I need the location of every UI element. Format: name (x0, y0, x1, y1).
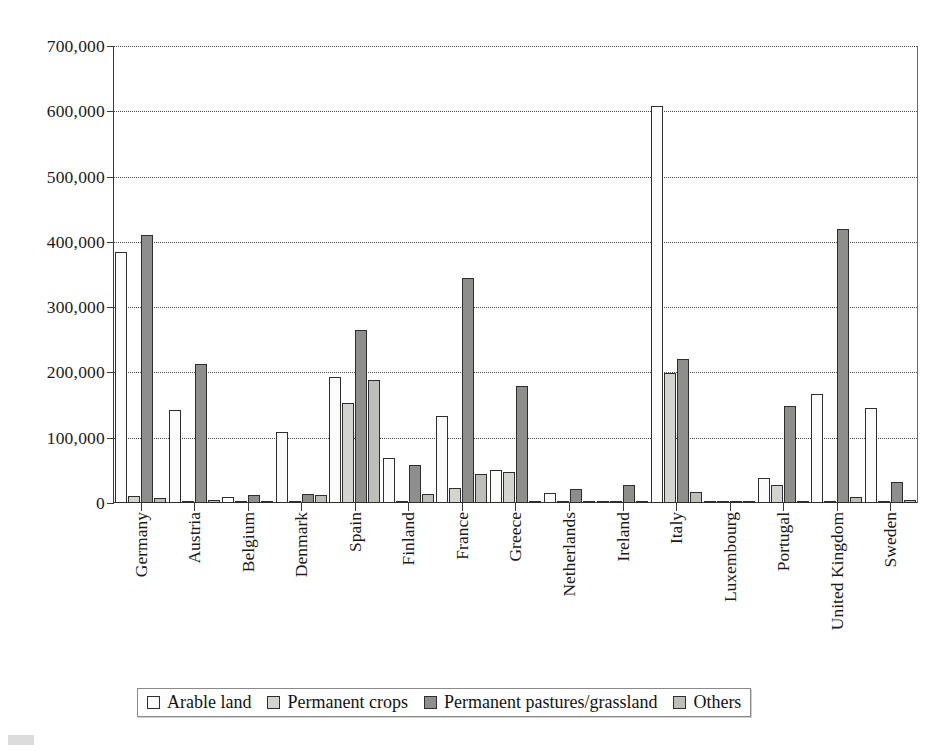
y-axis-tick-label: 400,000 (47, 231, 105, 252)
x-axis-category-label: Netherlands (559, 512, 580, 597)
legend-label: Permanent crops (287, 692, 407, 713)
y-axis-tick-label: 300,000 (47, 297, 105, 318)
x-axis-labels: GermanyAustriaBelgiumDenmarkSpainFinland… (114, 512, 917, 662)
y-axis-tick-label: 600,000 (47, 101, 105, 122)
bar (169, 410, 181, 503)
x-axis-category-label: Ireland (612, 512, 633, 562)
bar-group (810, 46, 864, 503)
legend-swatch-icon (147, 696, 160, 709)
y-axis-tick-label: 0 (96, 493, 105, 514)
x-axis-label-cell: Belgium (221, 512, 275, 662)
x-axis-category-label: Greece (505, 512, 526, 562)
bar (141, 235, 153, 503)
bar-groups (114, 46, 917, 503)
bar (115, 252, 127, 503)
legend-label: Arable land (167, 692, 251, 713)
y-axis-tick (107, 438, 114, 439)
legend-item: Others (673, 692, 741, 713)
bar-group (542, 46, 596, 503)
bar-group (756, 46, 810, 503)
x-axis-label-cell: Finland (382, 512, 436, 662)
x-axis-label-cell: Germany (114, 512, 168, 662)
bar (368, 380, 380, 503)
bar (342, 403, 354, 503)
bar (544, 493, 556, 503)
x-axis-tick (221, 503, 275, 512)
x-axis-label-cell: United Kingdom (810, 512, 864, 662)
bar (811, 394, 823, 503)
bar-chart: 700,000600,000500,000400,000300,000200,0… (0, 0, 943, 751)
bar (516, 386, 528, 504)
bar (690, 492, 702, 503)
y-axis-tick (107, 177, 114, 178)
bar-group (596, 46, 650, 503)
bar (355, 330, 367, 503)
bar (503, 472, 515, 503)
bar (436, 416, 448, 503)
bar-group (221, 46, 275, 503)
x-axis-tick (328, 503, 382, 512)
legend-label: Others (693, 692, 741, 713)
x-axis-tick (649, 503, 703, 512)
bar (422, 494, 434, 503)
bar (677, 359, 689, 503)
x-axis-category-label: Germany (130, 512, 151, 577)
x-axis-label-cell: Ireland (596, 512, 650, 662)
bar-group (114, 46, 168, 503)
bar (462, 278, 474, 503)
x-axis-tick (756, 503, 810, 512)
y-axis-tick-label: 200,000 (47, 362, 105, 383)
y-axis-tick-label: 700,000 (47, 36, 105, 57)
x-axis-label-cell: Denmark (275, 512, 329, 662)
x-axis-category-label: United Kingdom (826, 512, 847, 630)
bar (758, 478, 770, 503)
x-axis-tick (275, 503, 329, 512)
bar (315, 495, 327, 503)
legend-swatch-icon (267, 696, 280, 709)
bar (570, 489, 582, 503)
x-axis-label-cell: Italy (649, 512, 703, 662)
bar (664, 373, 676, 503)
legend-item: Permanent pastures/grassland (424, 692, 657, 713)
x-axis-category-label: Italy (666, 512, 687, 544)
x-axis-tick (703, 503, 757, 512)
bar-group (649, 46, 703, 503)
y-axis-tick (107, 46, 114, 47)
x-axis-label-cell: Greece (489, 512, 543, 662)
x-axis-label-cell: Luxembourg (703, 512, 757, 662)
bar-group (168, 46, 222, 503)
x-axis-category-label: Belgium (237, 512, 258, 572)
x-axis-category-label: Austria (184, 512, 205, 564)
x-axis-category-label: Denmark (291, 512, 312, 577)
legend-swatch-icon (424, 696, 437, 709)
x-axis-label-cell: Austria (168, 512, 222, 662)
bar-group (328, 46, 382, 503)
y-axis-tick-label: 100,000 (47, 427, 105, 448)
x-axis-label-cell: Netherlands (542, 512, 596, 662)
x-axis-category-label: France (451, 512, 472, 560)
bar (383, 458, 395, 503)
bar (837, 229, 849, 503)
y-axis-tick (107, 503, 114, 504)
x-axis-label-cell: Spain (328, 512, 382, 662)
bar (490, 470, 502, 503)
chart-legend: Arable landPermanent cropsPermanent past… (137, 688, 751, 717)
x-axis-category-label: Sweden (880, 512, 901, 567)
bar-group (435, 46, 489, 503)
y-axis-tick-label: 500,000 (47, 166, 105, 187)
y-axis-tick (107, 307, 114, 308)
bar (651, 106, 663, 503)
x-axis-tick (114, 503, 168, 512)
legend-label: Permanent pastures/grassland (444, 692, 657, 713)
bar (449, 488, 461, 503)
x-axis-tick (382, 503, 436, 512)
bar (784, 406, 796, 503)
bar (409, 465, 421, 503)
x-axis-category-label: Luxembourg (719, 512, 740, 602)
bar-group (703, 46, 757, 503)
bar-group (489, 46, 543, 503)
bar-group (382, 46, 436, 503)
bar (248, 495, 260, 503)
bar-group (275, 46, 329, 503)
bar (891, 482, 903, 503)
